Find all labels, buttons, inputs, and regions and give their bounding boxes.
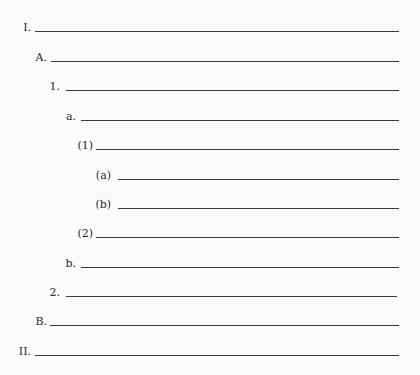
blank-line[interactable] <box>66 90 399 91</box>
outline-item: B. <box>0 315 420 335</box>
outline-label: II. <box>0 346 31 358</box>
outline-label: (2) <box>53 228 93 240</box>
outline-label: 2. <box>20 287 60 299</box>
outline-item: I. <box>0 21 420 41</box>
outline-label: I. <box>0 22 31 34</box>
outline-item: A. <box>0 51 420 71</box>
blank-line[interactable] <box>96 149 399 150</box>
outline-label: B. <box>7 316 47 328</box>
outline-label: b. <box>36 258 76 270</box>
blank-line[interactable] <box>66 296 397 297</box>
outline-item: 2. <box>0 286 420 306</box>
outline-label: (b) <box>71 199 111 211</box>
outline-label: (a) <box>71 170 111 182</box>
outline-item: (b) <box>0 198 420 218</box>
outline-item: 1. <box>0 80 420 100</box>
outline-label: a. <box>36 111 76 123</box>
outline-item: (2) <box>0 227 420 247</box>
outline-item: b. <box>0 257 420 277</box>
blank-line[interactable] <box>118 208 399 209</box>
outline-item: (1) <box>0 139 420 159</box>
outline-label: 1. <box>20 81 60 93</box>
outline-label: A. <box>7 52 47 64</box>
blank-line[interactable] <box>50 325 399 326</box>
outline-label: (1) <box>53 140 93 152</box>
blank-line[interactable] <box>118 179 399 180</box>
blank-line[interactable] <box>81 267 399 268</box>
outline-item: a. <box>0 110 420 130</box>
blank-line[interactable] <box>35 355 399 356</box>
blank-line[interactable] <box>81 120 399 121</box>
blank-line[interactable] <box>35 31 399 32</box>
outline-item: II. <box>0 345 420 365</box>
outline-item: (a) <box>0 169 420 189</box>
blank-line[interactable] <box>51 61 399 62</box>
blank-line[interactable] <box>96 237 399 238</box>
